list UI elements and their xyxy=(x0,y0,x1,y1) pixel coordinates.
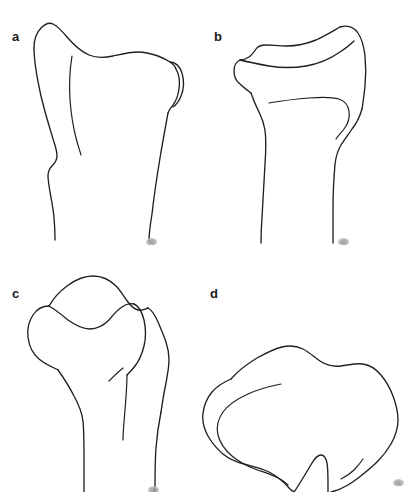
panel-d-posterior-notch xyxy=(294,455,328,492)
panel-label-c: c xyxy=(12,287,19,300)
panel-d-outer-outline xyxy=(231,346,398,492)
panel-c-inner-tick-line xyxy=(109,368,123,381)
panel-label-d: d xyxy=(210,287,218,300)
panel-a-left-border xyxy=(34,48,57,240)
panel-b-left-border xyxy=(251,93,266,243)
figure-drawing-canvas xyxy=(0,0,415,492)
panel-c-drawing xyxy=(28,276,169,492)
scan-smudge-d xyxy=(393,479,404,486)
panel-b-head-crest xyxy=(340,26,366,109)
panel-b-right-border xyxy=(333,109,362,243)
panel-b-inner-hook-line xyxy=(269,97,349,139)
panel-c-right-crest xyxy=(148,308,169,412)
panel-a-inner-line xyxy=(70,56,81,155)
panel-b-drawing xyxy=(234,26,366,243)
scan-smudge-b xyxy=(338,238,349,245)
panel-c-head-dome xyxy=(49,276,148,310)
panel-a-lateral-tubercle xyxy=(170,62,183,107)
panel-c-saddle-curve xyxy=(49,304,134,329)
panel-label-b: b xyxy=(214,30,222,43)
panel-d-inner-rim xyxy=(217,384,288,485)
panel-d-drawing xyxy=(203,346,398,492)
panel-c-left-lobe xyxy=(28,306,58,370)
panel-d-outer-outline-lower-left xyxy=(203,379,294,492)
panel-b-left-tuberosity xyxy=(234,60,251,93)
panel-c-inner-vertical-line xyxy=(123,375,127,440)
scan-smudge-c xyxy=(148,486,159,492)
figure-container: a b c d xyxy=(0,0,415,492)
panel-a-outline xyxy=(34,23,176,69)
panel-b-articular-margin xyxy=(240,27,340,60)
scan-smudge-a xyxy=(146,238,157,245)
panel-c-right-border xyxy=(155,412,161,492)
panel-label-a: a xyxy=(12,30,19,43)
panel-a-right-border xyxy=(149,113,168,241)
panel-a-drawing xyxy=(34,23,183,241)
panel-c-central-condyle xyxy=(127,304,146,375)
panel-c-left-border xyxy=(58,370,84,492)
